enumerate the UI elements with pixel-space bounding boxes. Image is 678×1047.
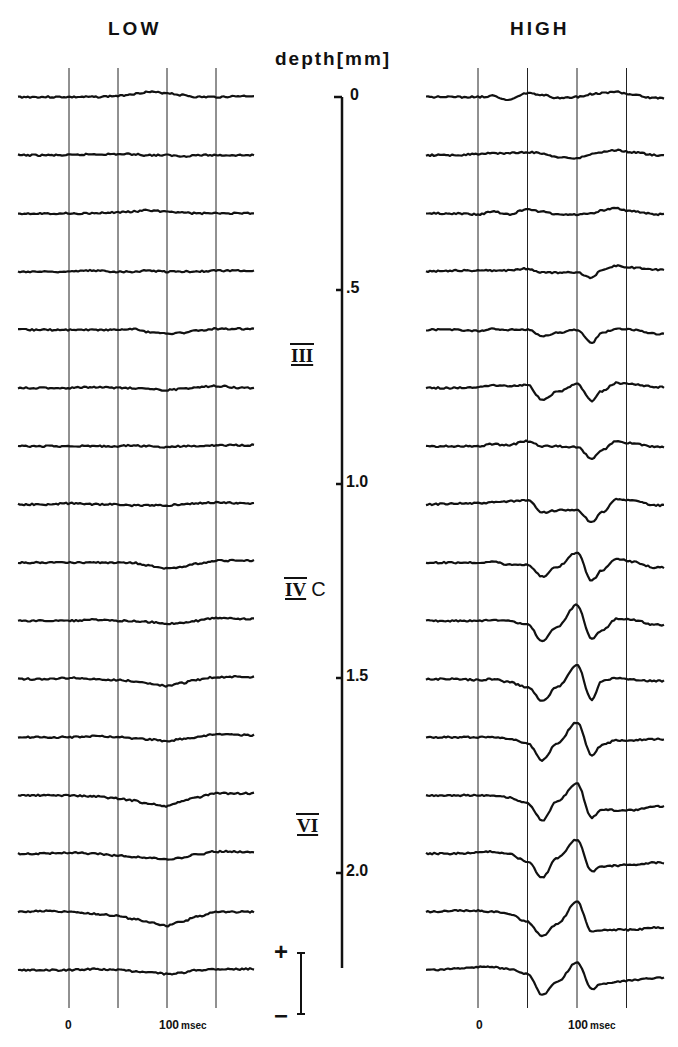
lfp-trace: [426, 604, 664, 641]
low-time-zero-label: 0: [65, 1018, 72, 1032]
lfp-trace: [18, 328, 254, 334]
depth-tick-1-5: 1.5: [346, 667, 368, 685]
polarity-plus-sign: +: [274, 938, 288, 966]
lfp-trace: [18, 444, 254, 447]
lfp-trace: [18, 153, 254, 156]
lfp-trace: [18, 734, 254, 742]
lfp-trace: [426, 265, 664, 278]
polarity-minus-sign: −: [274, 1002, 288, 1030]
low-time-100-label: 100msec: [159, 1018, 207, 1032]
lfp-trace: [426, 783, 664, 820]
lfp-trace: [426, 499, 664, 522]
low-traces: [18, 91, 254, 974]
depth-tick-1-0: 1.0: [346, 473, 368, 491]
lfp-trace: [426, 382, 664, 401]
lfp-trace: [18, 502, 254, 506]
layer-label-vi: VI: [296, 815, 319, 837]
lfp-trace: [18, 270, 254, 273]
depth-axis: [334, 97, 342, 968]
lfp-trace: [426, 665, 664, 701]
lfp-trace: [426, 902, 664, 937]
depth-tick-0: 0: [350, 86, 359, 104]
lfp-trace: [18, 385, 254, 390]
layer-label-ivc: IVC: [284, 578, 326, 601]
lfp-trace: [426, 441, 664, 460]
lfp-trace-figure: [0, 0, 678, 1047]
lfp-trace: [18, 851, 254, 860]
lfp-trace: [426, 723, 664, 761]
high-traces: [426, 91, 664, 994]
lfp-trace: [18, 210, 254, 215]
lfp-trace: [426, 150, 664, 159]
lfp-trace: [18, 91, 254, 97]
lfp-trace: [426, 553, 664, 581]
lfp-trace: [18, 618, 254, 625]
lfp-trace: [18, 793, 254, 807]
high-time-100-label: 100msec: [568, 1018, 616, 1032]
lfp-trace: [18, 676, 254, 687]
low-time-gridlines: [69, 68, 216, 1008]
lfp-trace: [18, 560, 254, 569]
depth-tick-2-0: 2.0: [346, 862, 368, 880]
lfp-trace: [18, 968, 254, 974]
lfp-trace: [426, 91, 664, 100]
high-time-zero-label: 0: [476, 1018, 483, 1032]
lfp-trace: [426, 962, 664, 994]
lfp-trace: [426, 328, 664, 343]
depth-tick-0-5: .5: [346, 279, 359, 297]
lfp-trace: [426, 208, 664, 215]
lfp-trace: [426, 840, 664, 877]
lfp-trace: [18, 910, 254, 926]
layer-label-iii: III: [290, 345, 314, 367]
amplitude-scale-bar: [297, 953, 305, 1014]
